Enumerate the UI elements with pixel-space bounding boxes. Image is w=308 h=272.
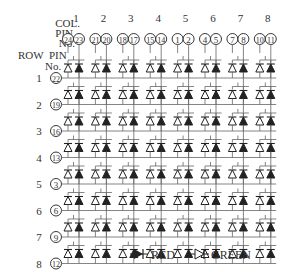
green-led-icon — [228, 170, 236, 178]
green-led-icon — [91, 250, 99, 258]
green-led-icon — [201, 170, 209, 178]
green-led-icon — [64, 197, 72, 205]
red-led-icon — [102, 170, 110, 178]
green-led-icon — [91, 170, 99, 178]
green-led-icon — [64, 144, 72, 152]
red-led-icon — [212, 91, 220, 99]
red-led-icon — [130, 223, 138, 231]
green-led-icon — [228, 197, 236, 205]
col-pin-7: 7 — [230, 35, 235, 45]
col-number-4: 4 — [155, 12, 161, 24]
red-led-icon — [102, 197, 110, 205]
red-led-icon — [102, 223, 110, 231]
red-led-icon — [157, 170, 165, 178]
red-led-icon — [212, 64, 220, 72]
red-led-icon — [130, 170, 138, 178]
green-led-icon — [91, 117, 99, 125]
col-pin-18: 18 — [119, 36, 127, 45]
green-led-icon — [119, 91, 127, 99]
red-led-icon — [75, 250, 83, 258]
red-led-icon — [75, 144, 83, 152]
green-led-icon — [201, 223, 209, 231]
green-led-icon — [91, 197, 99, 205]
col-number-1: 1 — [73, 12, 79, 24]
red-led-icon — [267, 223, 275, 231]
row-number-2: 2 — [36, 99, 42, 111]
red-led-icon — [212, 117, 220, 125]
green-led-icon — [228, 91, 236, 99]
green-led-icon — [64, 91, 72, 99]
led-matrix-diagram: 1242322120318174151451264577881011122219… — [0, 0, 308, 272]
row-pin-9: 9 — [54, 233, 59, 243]
red-led-icon — [185, 64, 193, 72]
col-pin-14: 14 — [157, 36, 165, 45]
green-led-icon — [201, 117, 209, 125]
row-pin-16: 16 — [52, 128, 60, 137]
row-pin-22: 22 — [52, 75, 60, 84]
green-led-icon — [174, 223, 182, 231]
red-led-icon — [267, 197, 275, 205]
red-led-icon — [212, 144, 220, 152]
red-led-icon — [102, 117, 110, 125]
green-led-icon — [146, 197, 154, 205]
red-led-icon — [157, 197, 165, 205]
green-led-icon — [256, 64, 264, 72]
red-led-icon — [75, 64, 83, 72]
red-led-icon — [239, 117, 247, 125]
green-led-icon — [91, 144, 99, 152]
green-led-icon — [119, 170, 127, 178]
red-led-icon — [130, 117, 138, 125]
col-number-3: 3 — [128, 12, 134, 24]
red-led-icon — [157, 91, 165, 99]
red-led-icon — [212, 170, 220, 178]
green-led-icon — [64, 250, 72, 258]
green-led-icon — [146, 144, 154, 152]
col-pin-10: 10 — [256, 36, 264, 45]
red-led-icon — [102, 91, 110, 99]
red-led-icon — [130, 64, 138, 72]
red-led-icon — [130, 144, 138, 152]
row-number-4: 4 — [36, 152, 42, 164]
green-led-icon — [119, 197, 127, 205]
red-led-icon — [185, 144, 193, 152]
red-led-icon — [75, 170, 83, 178]
legend-green-label: GREEN — [211, 250, 251, 261]
red-led-icon — [185, 170, 193, 178]
green-led-icon — [228, 117, 236, 125]
col-number-6: 6 — [210, 12, 216, 24]
red-led-icon — [185, 223, 193, 231]
red-led-icon — [239, 64, 247, 72]
green-led-icon — [256, 197, 264, 205]
green-led-icon — [91, 223, 99, 231]
red-led-icon — [267, 170, 275, 178]
green-led-icon — [256, 144, 264, 152]
red-led-icon — [130, 91, 138, 99]
red-led-icon — [239, 223, 247, 231]
col-number-8: 8 — [265, 12, 271, 24]
red-led-icon — [267, 250, 275, 258]
red-led-icon — [102, 64, 110, 72]
row-number-8: 8 — [36, 258, 42, 270]
col-pin-1: 1 — [175, 35, 180, 45]
green-led-icon — [146, 117, 154, 125]
row-number-5: 5 — [36, 178, 42, 190]
row-pin-13: 13 — [52, 154, 60, 163]
green-led-icon — [119, 144, 127, 152]
green-led-icon — [146, 91, 154, 99]
red-led-icon — [239, 91, 247, 99]
col-pin-5: 5 — [214, 35, 219, 45]
col-pin-24: 24 — [64, 36, 72, 45]
green-led-icon — [174, 64, 182, 72]
red-led-icon — [102, 250, 110, 258]
col-pin-11: 11 — [267, 36, 275, 45]
red-led-icon — [239, 197, 247, 205]
col-pin-20: 20 — [102, 36, 110, 45]
green-led-icon — [146, 64, 154, 72]
row-pin-3: 3 — [54, 180, 59, 190]
red-led-icon — [267, 117, 275, 125]
green-led-icon — [91, 64, 99, 72]
row-pin-19: 19 — [52, 101, 60, 110]
green-led-icon — [119, 117, 127, 125]
green-led-icon — [256, 170, 264, 178]
green-led-icon — [64, 117, 72, 125]
